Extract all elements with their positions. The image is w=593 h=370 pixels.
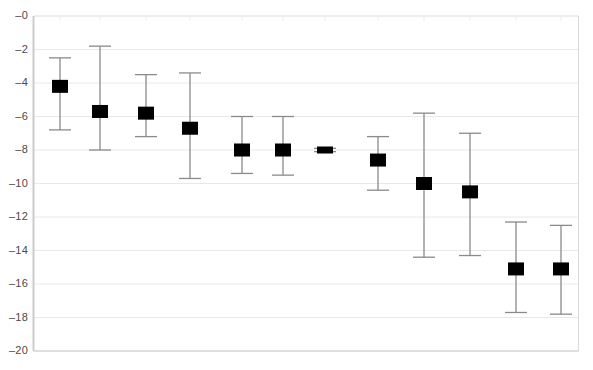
data-point [272,117,294,176]
gridlines [34,50,579,352]
y-tick-label: –12 [0,210,28,222]
data-marker [553,262,569,275]
data-point [459,133,481,255]
data-point [505,222,527,312]
x-axis-ticks [60,16,561,21]
data-point [135,75,157,137]
y-tick-label: –2 [0,43,28,55]
data-marker [508,262,524,275]
y-tick-label: –14 [0,244,28,256]
data-point [367,137,389,191]
y-tick-label: –8 [0,143,28,155]
data-marker [138,107,154,120]
y-tick-label: –6 [0,110,28,122]
data-marker [234,144,250,157]
data-point [413,113,435,257]
data-point [179,73,201,179]
data-marker [416,177,432,190]
data-point [314,147,336,154]
y-tick-label: –10 [0,177,28,189]
data-point [550,225,572,314]
data-marker [92,105,108,118]
data-marker [462,185,478,198]
data-series [49,46,572,314]
data-point [89,46,111,150]
y-tick-label: –20 [0,344,28,356]
data-marker [52,80,68,93]
data-marker [182,122,198,135]
chart-container: –0–2–4–6–8–10–12–14–16–18–20 [0,0,593,370]
data-marker [317,147,333,154]
data-marker [275,144,291,157]
data-point [231,117,253,174]
y-tick-label: –0 [0,9,28,21]
data-marker [370,154,386,167]
y-tick-label: –4 [0,76,28,88]
y-tick-label: –16 [0,277,28,289]
errorbar-plot [0,0,593,370]
y-tick-label: –18 [0,311,28,323]
data-point [49,58,71,130]
